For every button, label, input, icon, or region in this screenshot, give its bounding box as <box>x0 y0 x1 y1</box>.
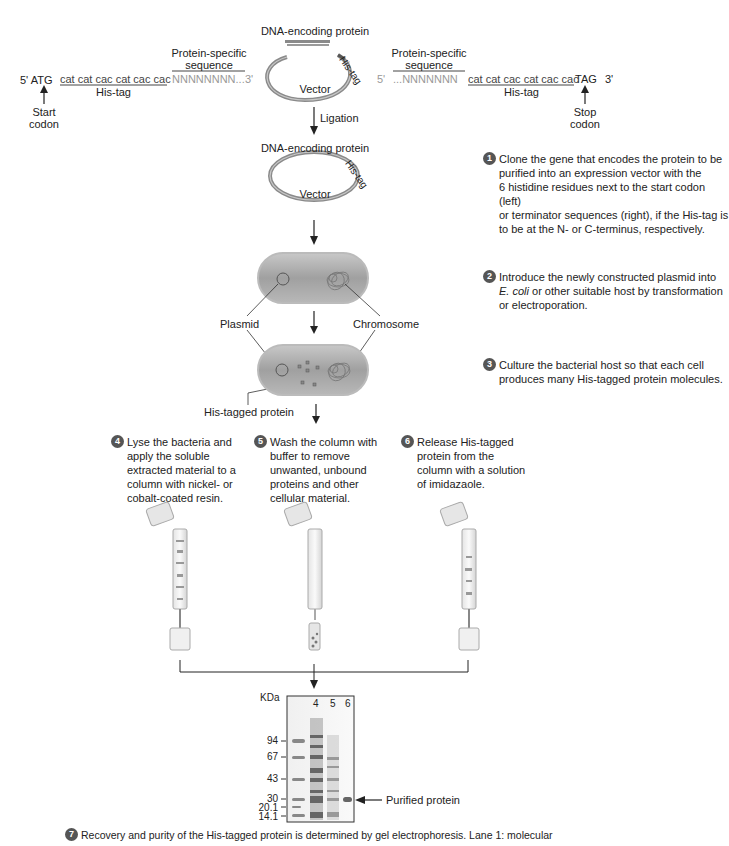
step-6: 6 Release His-tagged protein from the co… <box>401 435 525 491</box>
arrow-down-icon <box>310 680 318 689</box>
gel-lane-6: 6 <box>345 698 351 710</box>
stop-codon-label-2: codon <box>565 118 605 131</box>
step-number-badge: 7 <box>65 828 78 841</box>
seq-left-prefix: 5' ATG <box>20 74 52 87</box>
step-3-text: Culture the bacterial host so that each … <box>499 358 723 386</box>
step-7-text: Recovery and purity of the His-tagged pr… <box>81 828 553 842</box>
step-1-text: Clone the gene that encodes the protein … <box>499 152 729 236</box>
gel-marker-14-1: 14.1 <box>252 811 278 823</box>
seq-right-suffix: 3' <box>605 73 613 86</box>
ligation-label: Ligation <box>320 112 359 125</box>
seq-right-his-codons: cat cat cac cat cac cac <box>468 73 579 86</box>
column-2-illustration <box>284 501 322 650</box>
step-2: 2 Introduce the newly constructed plasmi… <box>483 270 723 312</box>
seq-right-his-label: His-tag <box>468 86 575 99</box>
arrow-down-icon <box>310 220 318 245</box>
seq-left-his-codons: cat cat cac cat cac cac <box>60 73 171 86</box>
bacterial-cell-2 <box>258 345 368 395</box>
purified-protein-arrow-icon <box>355 796 382 804</box>
vector-ligated-dna-label: DNA-encoding protein <box>255 142 375 155</box>
step-4: 4 Lyse the bacteria and apply the solubl… <box>111 435 236 505</box>
step-4-text: Lyse the bacteria and apply the soluble … <box>127 435 236 505</box>
step-number-badge: 1 <box>483 152 496 165</box>
gel-marker-43: 43 <box>258 773 278 785</box>
bacterial-cell-1 <box>258 253 368 303</box>
chromosome-label: Chromosome <box>353 318 419 331</box>
step-7: 7 Recovery and purity of the His-tagged … <box>65 828 553 842</box>
stop-codon-arrow-icon <box>581 85 589 104</box>
start-codon-label-2: codon <box>24 118 64 131</box>
seq-left-suffix: 3' <box>245 73 253 86</box>
plasmid-label: Plasmid <box>220 318 259 331</box>
step-5: 5 Wash the column with buffer to remove … <box>254 435 377 505</box>
seq-left-protein-seq: NNNNNNNN... <box>172 73 245 86</box>
column-3-illustration <box>440 501 479 650</box>
step-3: 3 Culture the bacterial host so that eac… <box>483 358 723 386</box>
bracket-connector <box>180 660 468 682</box>
step-6-text: Release His-tagged protein from the colu… <box>417 435 525 491</box>
seq-left-protein-label-2: sequence <box>170 59 248 72</box>
step-5-text: Wash the column with buffer to remove un… <box>270 435 377 505</box>
step-number-badge: 2 <box>483 270 496 283</box>
arrow-down-icon <box>310 311 318 334</box>
vector-ligated-label: Vector <box>285 188 345 201</box>
vector-top-dna-label: DNA-encoding protein <box>255 25 375 38</box>
vector-top-label: Vector <box>285 83 345 96</box>
gel-lane-4: 4 <box>313 698 319 710</box>
gel-marker-94: 94 <box>258 735 278 747</box>
seq-left-his-label: His-tag <box>60 86 167 99</box>
ligation-arrow-icon <box>310 107 318 135</box>
gel-unit-label: KDa <box>260 692 279 704</box>
step-number-badge: 6 <box>401 435 414 448</box>
gel-image <box>281 696 354 822</box>
seq-right-stop: TAG <box>575 73 597 86</box>
step-number-badge: 4 <box>111 435 124 448</box>
step-2-text: Introduce the newly constructed plasmid … <box>499 270 723 312</box>
step-number-badge: 3 <box>483 358 496 371</box>
diagram-graphics <box>0 0 729 846</box>
step-1: 1 Clone the gene that encodes the protei… <box>483 152 729 236</box>
seq-right-prefix: 5' <box>377 73 385 86</box>
gel-lane-5: 5 <box>330 698 336 710</box>
seq-right-protein-label-2: sequence <box>390 59 468 72</box>
purified-protein-label: Purified protein <box>386 794 460 807</box>
seq-right-protein-seq: ...NNNNNNN <box>393 73 458 86</box>
his-tagged-protein-label: His-tagged protein <box>204 406 294 419</box>
start-codon-arrow-icon <box>40 85 48 104</box>
arrow-down-icon <box>312 404 320 424</box>
step-number-badge: 5 <box>254 435 267 448</box>
gel-marker-67: 67 <box>258 751 278 763</box>
column-1-illustration <box>146 501 190 650</box>
